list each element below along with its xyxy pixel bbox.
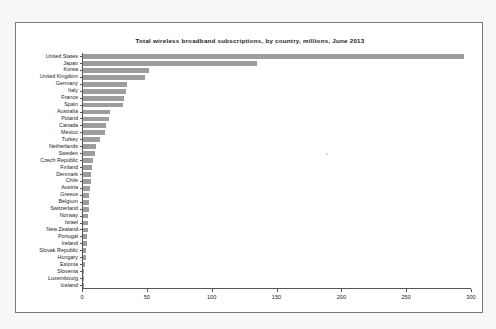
- y-axis-label: Korea: [64, 66, 78, 73]
- y-axis-label: Turkey: [62, 136, 78, 143]
- y-axis-tick: [80, 98, 83, 99]
- x-axis-tick: [147, 289, 148, 292]
- y-axis-tick: [80, 181, 83, 182]
- x-axis-tick: [406, 289, 407, 292]
- bar: [83, 61, 257, 66]
- x-axis-tick-label: 0: [80, 294, 83, 300]
- bar-row: Canada: [82, 122, 471, 129]
- y-axis-label: Estonia: [60, 261, 78, 268]
- y-axis-label: New Zealand: [46, 226, 78, 233]
- bar: [83, 158, 93, 163]
- scan-artifact: [78, 229, 80, 231]
- y-axis-label: Israel: [65, 219, 78, 226]
- bar-row: Denmark: [82, 171, 471, 178]
- bar-row: Greece: [82, 192, 471, 199]
- bar-row: Germany: [82, 81, 471, 88]
- x-axis-tick-label: 300: [466, 294, 475, 300]
- y-axis-label: Iceland: [61, 282, 78, 289]
- y-axis-label: Germany: [56, 80, 78, 87]
- x-axis-tick-label: 50: [144, 294, 150, 300]
- y-axis-tick: [80, 271, 83, 272]
- y-axis-tick: [80, 160, 83, 161]
- bar: [83, 103, 123, 108]
- bar: [83, 241, 87, 246]
- bar: [83, 137, 100, 142]
- y-axis-label: United Kingdom: [40, 73, 78, 80]
- y-axis-label: Spain: [64, 101, 78, 108]
- bar: [83, 214, 88, 219]
- y-axis-tick: [80, 105, 83, 106]
- y-axis-label: France: [61, 94, 78, 101]
- y-axis-tick: [80, 243, 83, 244]
- y-axis-label: Ireland: [62, 240, 78, 247]
- bar: [83, 200, 89, 205]
- bar-row: Portugal: [82, 233, 471, 240]
- bar-row: Ireland: [82, 240, 471, 247]
- bar-row: Austria: [82, 185, 471, 192]
- bar: [83, 193, 89, 198]
- y-axis-tick: [80, 285, 83, 286]
- bar: [83, 228, 88, 233]
- bar: [83, 234, 87, 239]
- y-axis-label: Belgium: [59, 198, 78, 205]
- y-axis-tick: [80, 153, 83, 154]
- y-axis-label: Luxembourg: [48, 275, 78, 282]
- y-axis-tick: [80, 125, 83, 126]
- x-axis-tick-label: 100: [207, 294, 216, 300]
- y-axis-label: Australia: [57, 108, 78, 115]
- bar-row: Czech Republic: [82, 157, 471, 164]
- bar: [83, 123, 106, 128]
- y-axis-label: Switzerland: [50, 205, 78, 212]
- bar: [83, 269, 84, 274]
- y-axis-tick: [80, 209, 83, 210]
- y-axis-tick: [80, 167, 83, 168]
- y-axis-tick: [80, 84, 83, 85]
- y-axis-tick: [80, 91, 83, 92]
- bar: [83, 179, 91, 184]
- y-axis-label: Czech Republic: [40, 157, 78, 164]
- chart-frame: Total wireless broadband subscriptions, …: [15, 22, 483, 313]
- y-axis-label: Portugal: [58, 233, 78, 240]
- y-axis-tick: [80, 56, 83, 57]
- y-axis-label: United States: [46, 53, 78, 60]
- scan-artifact: [326, 153, 328, 155]
- bar-row: Australia: [82, 109, 471, 116]
- x-axis-tick: [82, 289, 83, 292]
- y-axis-label: Slovak Republic: [39, 247, 78, 254]
- y-axis-label: Japan: [63, 60, 78, 67]
- y-axis-label: Finland: [60, 164, 78, 171]
- bar-row: Israel: [82, 220, 471, 227]
- x-axis-tick: [212, 289, 213, 292]
- y-axis-tick: [80, 63, 83, 64]
- y-axis-label: Norway: [60, 212, 78, 219]
- y-axis-label: Hungary: [58, 254, 78, 261]
- screenshot-root: Total wireless broadband subscriptions, …: [0, 0, 496, 329]
- y-axis-tick: [80, 70, 83, 71]
- bar: [83, 117, 109, 122]
- bar-row: United Kingdom: [82, 74, 471, 81]
- chart-title: Total wireless broadband subscriptions, …: [16, 37, 484, 44]
- bar: [83, 68, 149, 73]
- bar: [83, 221, 88, 226]
- bar-row: Luxembourg: [82, 275, 471, 282]
- x-axis-tick: [277, 289, 278, 292]
- y-axis-label: Greece: [60, 191, 78, 198]
- y-axis-tick: [80, 195, 83, 196]
- bar-row: Poland: [82, 115, 471, 122]
- y-axis-label: Chile: [66, 177, 78, 184]
- y-axis-tick: [80, 216, 83, 217]
- plot-area: United StatesJapanKoreaUnited KingdomGer…: [82, 53, 471, 289]
- bar-row: Turkey: [82, 136, 471, 143]
- bar: [83, 82, 127, 87]
- bar: [83, 110, 110, 115]
- bar-row: Netherlands: [82, 143, 471, 150]
- bar: [83, 255, 86, 260]
- bar: [83, 151, 95, 156]
- bar-row: Italy: [82, 88, 471, 95]
- y-axis-tick: [80, 229, 83, 230]
- bar-row: Iceland: [82, 282, 471, 289]
- bar: [83, 186, 90, 191]
- y-axis-tick: [80, 188, 83, 189]
- bar-series: United StatesJapanKoreaUnited KingdomGer…: [82, 53, 471, 289]
- bar: [83, 54, 464, 59]
